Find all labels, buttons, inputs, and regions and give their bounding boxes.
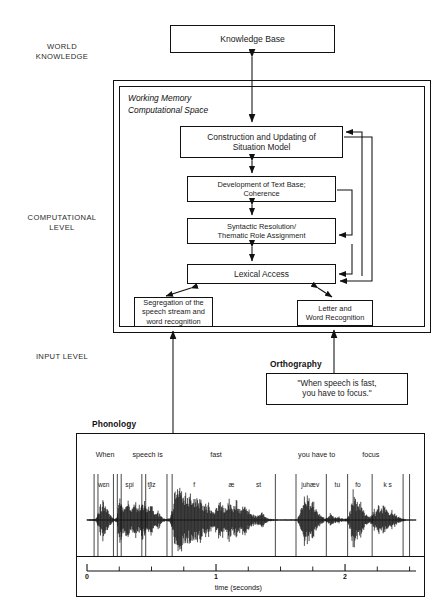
feedback-construction-to-lexical	[340, 137, 372, 281]
diagram-canvas: WORLD KNOWLEDGE COMPUTATIONAL LEVEL INPU…	[0, 0, 437, 616]
feedback-textbase-to-syntactic	[337, 190, 352, 235]
connector-layer	[0, 0, 437, 616]
link-lexical-to-letter	[318, 288, 332, 297]
link-lexical-to-segregation	[166, 288, 191, 296]
feedback-lexical-to-construction	[346, 132, 362, 276]
feedback-syntactic-to-lexical	[339, 244, 352, 274]
